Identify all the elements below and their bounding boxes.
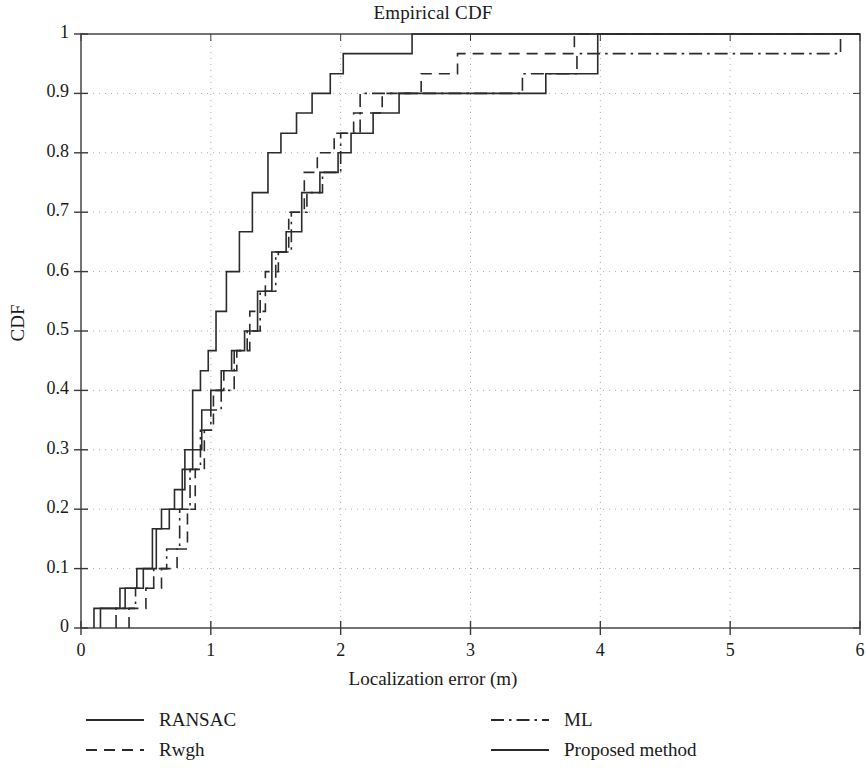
y-tick-label: 0.1 <box>13 557 69 578</box>
y-tick-label: 0.6 <box>13 260 69 281</box>
series-line-ransac <box>94 34 860 628</box>
y-tick-label: 0.4 <box>13 378 69 399</box>
series-line-proposed-method <box>100 34 860 628</box>
legend-item[interactable]: Proposed method <box>490 736 696 764</box>
x-axis-label: Localization error (m) <box>0 668 866 690</box>
y-tick-label: 0 <box>13 616 69 637</box>
x-tick-label: 3 <box>451 640 491 661</box>
x-tick-label: 5 <box>710 640 750 661</box>
data-series-layer <box>94 34 860 628</box>
legend-line-sample-icon <box>490 713 550 727</box>
chart-legend: RANSACRwghMLProposed method <box>0 706 866 768</box>
legend-line-sample-icon <box>85 713 145 727</box>
legend-line-sample-icon <box>490 743 550 757</box>
legend-label: RANSAC <box>159 709 236 731</box>
axes-frame <box>74 34 860 635</box>
legend-item[interactable]: RANSAC <box>85 706 236 734</box>
legend-item[interactable]: ML <box>490 706 593 734</box>
y-tick-label: 0.7 <box>13 200 69 221</box>
x-tick-label: 2 <box>321 640 361 661</box>
y-tick-label: 1 <box>13 22 69 43</box>
x-tick-label: 6 <box>840 640 866 661</box>
y-tick-label: 0.9 <box>13 81 69 102</box>
series-line-ml <box>116 34 860 628</box>
chart-title: Empirical CDF <box>0 2 866 24</box>
legend-line-sample-icon <box>85 743 145 757</box>
x-tick-label: 4 <box>580 640 620 661</box>
empirical-cdf-figure: Empirical CDF 00.10.20.30.40.50.60.70.80… <box>0 0 866 768</box>
y-tick-label: 0.8 <box>13 141 69 162</box>
legend-label: ML <box>564 709 593 731</box>
legend-item[interactable]: Rwgh <box>85 736 204 764</box>
y-axis-label: CDF <box>7 283 29 363</box>
y-tick-label: 0.3 <box>13 438 69 459</box>
x-tick-label: 0 <box>61 640 101 661</box>
x-tick-label: 1 <box>191 640 231 661</box>
legend-label: Rwgh <box>159 739 204 761</box>
legend-label: Proposed method <box>564 739 696 761</box>
y-tick-label: 0.2 <box>13 497 69 518</box>
series-line-rwgh <box>129 34 860 628</box>
gridlines <box>81 34 860 628</box>
